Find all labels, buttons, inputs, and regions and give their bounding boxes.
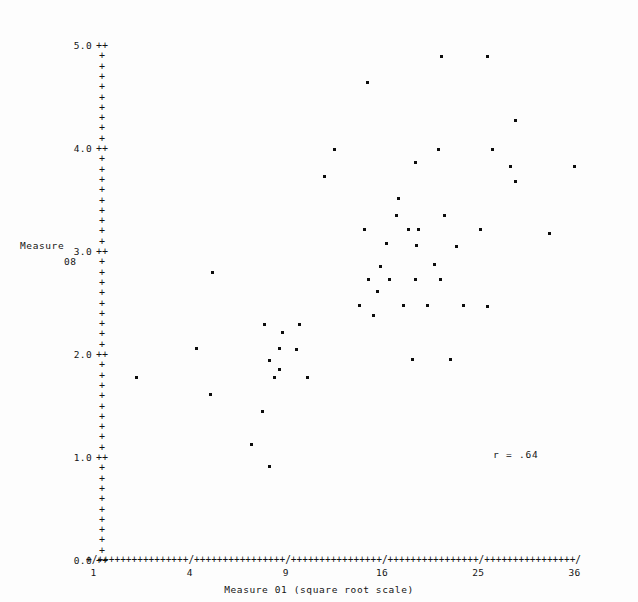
data-point: [486, 305, 489, 308]
data-point: [278, 347, 281, 350]
data-point: [306, 376, 309, 379]
x-axis-tick-label: 16: [362, 568, 402, 578]
data-point: [268, 359, 271, 362]
data-point: [548, 232, 551, 235]
data-point: [437, 148, 440, 151]
data-point: [135, 376, 138, 379]
data-point: [211, 271, 214, 274]
data-point: [268, 465, 271, 468]
data-point: [250, 443, 253, 446]
data-point: [278, 368, 281, 371]
data-point: [455, 245, 458, 248]
data-point: [372, 314, 375, 317]
data-point: [281, 331, 284, 334]
data-point: [376, 290, 379, 293]
data-point: [388, 278, 391, 281]
x-axis-title: Measure 01 (square root scale): [0, 584, 638, 595]
x-axis-tick-label: 1: [74, 568, 114, 578]
data-point: [433, 263, 436, 266]
data-point: [411, 358, 414, 361]
x-axis-tick-label: 9: [266, 568, 306, 578]
data-point: [367, 278, 370, 281]
x-axis: +/++++++++++++++++/++++++++++++++++/++++…: [86, 555, 554, 567]
x-axis-tick-label: 36: [555, 568, 595, 578]
data-point: [573, 165, 576, 168]
x-axis-tick-label: 4: [170, 568, 210, 578]
data-point: [209, 393, 212, 396]
data-point: [509, 165, 512, 168]
data-point: [479, 228, 482, 231]
data-point: [366, 81, 369, 84]
data-point: [449, 358, 452, 361]
data-point: [443, 214, 446, 217]
data-point: [439, 278, 442, 281]
data-point: [385, 242, 388, 245]
data-point: [379, 265, 382, 268]
data-point: [426, 304, 429, 307]
data-point: [397, 197, 400, 200]
data-point: [295, 348, 298, 351]
data-point: [491, 148, 494, 151]
data-point: [417, 228, 420, 231]
data-point: [195, 347, 198, 350]
data-point: [363, 228, 366, 231]
data-point: [298, 323, 301, 326]
x-axis-tick-label: 25: [458, 568, 498, 578]
data-point: [514, 180, 517, 183]
data-point: [402, 304, 405, 307]
data-point: [323, 175, 326, 178]
data-point: [261, 410, 264, 413]
data-point: [333, 148, 336, 151]
data-point: [414, 161, 417, 164]
scatter-plot-figure: Measure 08 +++++++++++++++++++++++++++++…: [0, 0, 638, 602]
data-point: [440, 55, 443, 58]
data-point: [514, 119, 517, 122]
data-point: [358, 304, 361, 307]
data-point: [415, 244, 418, 247]
data-point: [273, 376, 276, 379]
data-points-layer: [0, 0, 638, 602]
data-point: [263, 323, 266, 326]
data-point: [486, 55, 489, 58]
data-point: [395, 214, 398, 217]
data-point: [462, 304, 465, 307]
data-point: [414, 278, 417, 281]
data-point: [407, 228, 410, 231]
correlation-annotation: r = .64: [493, 449, 539, 460]
